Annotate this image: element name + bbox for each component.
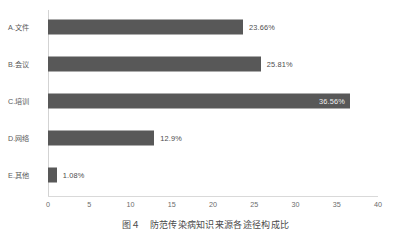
x-tick-label: 10	[126, 200, 134, 209]
x-tick-label: 0	[46, 200, 50, 209]
x-tick-label: 5	[87, 200, 91, 209]
bar-value-label: 36.56%	[319, 96, 345, 105]
bar[interactable]	[48, 19, 243, 34]
bar[interactable]	[48, 130, 154, 145]
x-tick-label: 25	[250, 200, 258, 209]
x-tick-label: 35	[333, 200, 341, 209]
figure-caption: 图４ 防范传染病知识来源各途径构成比	[0, 219, 411, 231]
bar-track: 23.66%	[48, 8, 411, 45]
category-label: A.文件	[8, 22, 46, 31]
plot-area: A.文件 23.66% B.会议 25.81% C.培训 36.56% D.网络	[0, 8, 411, 196]
bar-track: 12.9%	[48, 119, 411, 156]
bar-row: A.文件 23.66%	[0, 8, 411, 45]
category-label: B.会议	[8, 59, 46, 68]
bar[interactable]	[48, 56, 261, 71]
x-tick-label: 40	[374, 200, 382, 209]
bar[interactable]	[48, 93, 350, 108]
bar-row: B.会议 25.81%	[0, 45, 411, 82]
bar-row: C.培训 36.56%	[0, 82, 411, 119]
bar-value-label: 23.66%	[249, 22, 275, 31]
bar-value-label: 12.9%	[160, 133, 182, 142]
x-tick-label: 30	[291, 200, 299, 209]
bar-track: 36.56%	[48, 82, 411, 119]
bar-value-label: 25.81%	[267, 59, 293, 68]
category-label: E.其他	[8, 170, 46, 179]
x-tick-label: 15	[168, 200, 176, 209]
x-tick-label: 20	[209, 200, 217, 209]
x-axis-line	[48, 196, 378, 197]
bar-row: D.网络 12.9%	[0, 119, 411, 156]
x-axis: 0 5 10 15 20 25 30 35 40	[0, 196, 411, 212]
bar-track: 25.81%	[48, 45, 411, 82]
bar-row: E.其他 1.08%	[0, 156, 411, 193]
bar[interactable]	[48, 167, 57, 182]
category-label: D.网络	[8, 133, 46, 142]
bar-chart-figure: A.文件 23.66% B.会议 25.81% C.培训 36.56% D.网络	[0, 0, 411, 231]
category-label: C.培训	[8, 96, 46, 105]
bar-track: 1.08%	[48, 156, 411, 193]
bar-value-label: 1.08%	[63, 170, 85, 179]
